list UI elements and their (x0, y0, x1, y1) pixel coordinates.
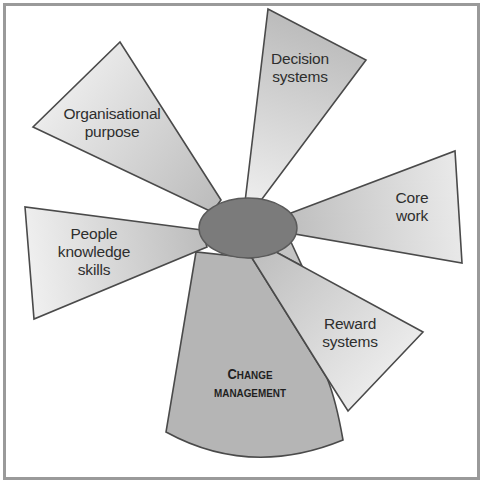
label-line: People (44, 225, 144, 243)
label-line: Reward (310, 315, 390, 333)
label-line: Organisational (52, 105, 172, 123)
label-decision-systems: Decision systems (260, 50, 340, 86)
label-reward-systems: Reward systems (310, 315, 390, 351)
small-cap-rest: HANGE (237, 369, 273, 381)
label-organisational-purpose: Organisational purpose (52, 105, 172, 141)
label-line: MANAGEMENT (207, 384, 293, 402)
label-line: skills (44, 261, 144, 279)
decision-systems-blade (245, 9, 366, 202)
label-change-management: CHANGE MANAGEMENT (207, 365, 293, 402)
small-cap-line: MANAGEMENT (214, 387, 286, 399)
label-line: Decision (260, 50, 340, 68)
label-line: Core (382, 189, 442, 207)
hub-ellipse (199, 198, 297, 258)
label-line: systems (310, 333, 390, 351)
label-line: knowledge (44, 243, 144, 261)
small-cap-initial: C (227, 365, 236, 382)
label-people-knowledge-skills: People knowledge skills (44, 225, 144, 279)
label-line: work (382, 207, 442, 225)
label-core-work: Core work (382, 189, 442, 225)
label-line: systems (260, 68, 340, 86)
label-line: CHANGE (207, 365, 293, 384)
label-line: purpose (52, 123, 172, 141)
